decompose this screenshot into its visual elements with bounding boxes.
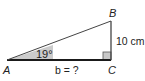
right-angle-marker	[103, 52, 111, 60]
triangle-diagram: 19° B 10 cm A b = ? C	[0, 0, 145, 81]
vertex-a-label: A	[2, 64, 10, 76]
side-ac-label: b = ?	[55, 64, 79, 76]
vertex-b-label: B	[109, 7, 116, 19]
angle-a-label: 19°	[36, 48, 53, 60]
vertex-c-label: C	[108, 64, 116, 76]
side-bc-label: 10 cm	[116, 35, 145, 47]
side-ab-hypotenuse	[7, 21, 111, 60]
